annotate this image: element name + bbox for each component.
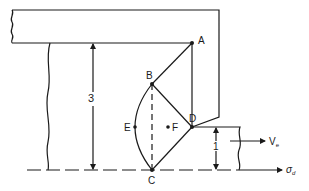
top-plate: [11, 10, 219, 127]
stress-label: σd: [286, 164, 296, 176]
velocity-label: Ve: [269, 136, 280, 148]
dimension-label-3: 3: [88, 92, 94, 104]
point-e: [133, 125, 137, 129]
point-a: [190, 41, 194, 45]
line-d-c: [152, 127, 192, 170]
left-wavy-boundary: [47, 43, 50, 170]
label-f: F: [172, 122, 178, 133]
point-c: [150, 168, 154, 172]
dimension-label-1: 1: [213, 141, 219, 152]
line-a-b: [152, 43, 192, 84]
diagram-canvas: A B C D E F 3 1 Ve σd: [0, 0, 309, 191]
label-e: E: [124, 122, 131, 133]
arc-b-e-c: [135, 84, 152, 170]
label-d: D: [189, 113, 196, 124]
point-f: [166, 125, 170, 129]
label-b: B: [146, 70, 153, 81]
label-c: C: [148, 175, 155, 186]
label-a: A: [198, 35, 205, 46]
point-b: [150, 82, 154, 86]
line-b-d: [152, 84, 192, 127]
point-d: [190, 125, 194, 129]
